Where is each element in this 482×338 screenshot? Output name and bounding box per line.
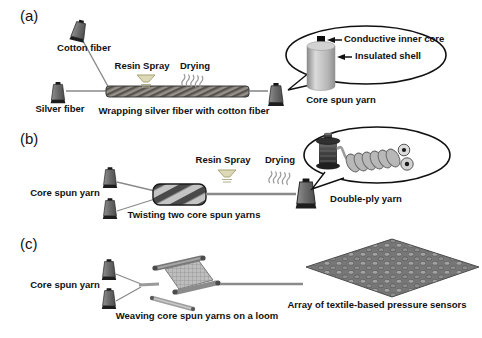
drying-label-a: Drying — [172, 61, 218, 72]
fabric-array-icon — [306, 239, 479, 297]
core-spun-yarn-label-b: Core spun yarn — [26, 188, 104, 199]
core-spun-bobbin-b1-icon — [103, 167, 117, 188]
core-spun-bobbin-c2-icon — [102, 288, 116, 309]
core-spun-yarn-label-c: Core spun yarn — [27, 280, 103, 291]
cotton-fiber-label: Cotton fiber — [50, 43, 118, 54]
silver-fiber-label: Silver fiber — [28, 104, 92, 115]
yarn-segment-c — [139, 284, 159, 285]
core-spun-yarn-bobbin-a-icon — [268, 83, 284, 106]
insulated-shell-label: Insulated shell — [355, 51, 421, 62]
feed-line-c1 — [116, 274, 141, 284]
core-spun-bobbin-c1-icon — [102, 259, 116, 280]
wrapped-yarn-icon — [106, 86, 249, 97]
panel-a-label: (a) — [20, 7, 38, 24]
panel-c-caption: Weaving core spun yarns on a loom — [106, 311, 288, 322]
double-ply-bobbin-icon — [296, 178, 317, 208]
sensor-array-label: Array of textile-based pressure sensors — [274, 300, 480, 311]
panel-a-graphics — [51, 18, 446, 106]
resin-spray-icon-b — [218, 170, 236, 182]
cotton-fiber-bobbin-icon — [69, 18, 88, 42]
panel-b-graphics — [103, 127, 450, 219]
panel-c-label: (c) — [20, 235, 38, 252]
drying-label-b: Drying — [257, 155, 303, 166]
feed-line-c2 — [116, 287, 141, 301]
panel-b-label: (b) — [20, 130, 38, 147]
drying-steam-icon-b — [269, 171, 291, 185]
figure-canvas: (a) Cotton fiber Silver fiber Resin Spra… — [0, 0, 482, 338]
core-spun-yarn-label-a: Core spun yarn — [299, 95, 383, 106]
silver-fiber-bobbin-icon — [51, 82, 66, 103]
callout-b-bubble — [304, 127, 450, 189]
resin-spray-icon-a — [137, 75, 155, 87]
feed-line-b1 — [117, 182, 155, 191]
resin-spray-label-a: Resin Spray — [111, 61, 173, 72]
resin-spray-label-b: Resin Spray — [193, 155, 253, 166]
conductive-inner-core-label: Conductive inner core — [344, 34, 444, 45]
core-yarn-cylinder-icon — [307, 36, 335, 91]
loom-icon — [150, 255, 221, 311]
panel-b-caption: Twisting two core spun yarns — [116, 210, 272, 221]
twisted-yarn-icon — [153, 184, 206, 205]
double-ply-yarn-label: Double-ply yarn — [321, 194, 411, 205]
panel-a-caption: Wrapping silver fiber with cotton fiber — [92, 106, 276, 117]
